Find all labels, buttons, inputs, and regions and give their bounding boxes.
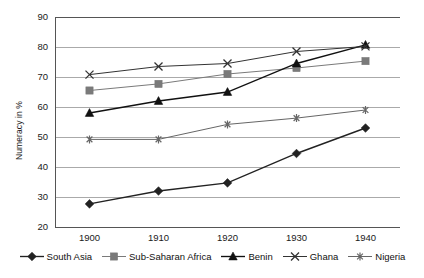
marker-square (362, 58, 369, 65)
legend-swatch-asterisk-icon (347, 250, 373, 262)
y-axis-tick-label: 70 (22, 72, 48, 82)
legend-item-south-asia[interactable]: South Asia (19, 250, 92, 262)
marker-square (224, 70, 231, 77)
marker-diamond (154, 187, 163, 196)
x-axis-tick-label: 1910 (139, 232, 179, 243)
marker-diamond (85, 200, 94, 209)
marker-diamond (27, 252, 36, 261)
marker-diamond (223, 179, 232, 188)
legend-label: Ghana (310, 251, 339, 262)
legend-label: South Asia (47, 251, 92, 262)
legend-item-benin[interactable]: Benin (220, 250, 272, 262)
numeracy-line-chart: Numeracy in % 2030405060708090 190019101… (0, 0, 424, 278)
y-axis-tick-label: 40 (22, 162, 48, 172)
legend-swatch-cross-icon (282, 250, 308, 262)
chart-legend: South AsiaSub-Saharan AfricaBeninGhanaNi… (0, 250, 424, 262)
marker-diamond (292, 149, 301, 158)
series-south-asia (85, 124, 370, 209)
series-line (90, 45, 366, 113)
marker-square (86, 87, 93, 94)
y-axis-tick-label: 80 (22, 42, 48, 52)
legend-label: Benin (248, 251, 272, 262)
legend-label: Sub-Saharan Africa (129, 251, 211, 262)
x-axis-tick-label: 1900 (70, 232, 110, 243)
marker-diamond (361, 124, 370, 133)
marker-square (110, 253, 117, 260)
legend-item-nigeria[interactable]: Nigeria (347, 250, 405, 262)
y-axis-tick-label: 20 (22, 222, 48, 232)
legend-swatch-diamond-icon (19, 250, 45, 262)
y-axis-tick-label: 30 (22, 192, 48, 202)
legend-item-sub-saharan-africa[interactable]: Sub-Saharan Africa (101, 250, 211, 262)
y-axis-tick-label: 90 (22, 12, 48, 22)
x-axis-tick-label: 1940 (346, 232, 386, 243)
x-axis-tick-label: 1920 (208, 232, 248, 243)
legend-label: Nigeria (375, 251, 405, 262)
y-axis-tick-label: 50 (22, 132, 48, 142)
y-axis-tick-label: 60 (22, 102, 48, 112)
legend-swatch-square-icon (101, 250, 127, 262)
series-benin (85, 41, 369, 117)
legend-swatch-triangle-icon (220, 250, 246, 262)
x-axis-tick-label: 1930 (277, 232, 317, 243)
marker-square (155, 80, 162, 87)
legend-item-ghana[interactable]: Ghana (282, 250, 339, 262)
